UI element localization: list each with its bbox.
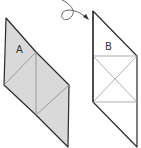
shape-a-outline [4,18,69,147]
shape-a: A [4,18,69,147]
shape-b: B [93,11,137,147]
shape-a-label: A [16,44,23,55]
fold-diagram: A B [0,0,141,148]
shape-b-label: B [105,41,112,52]
curly-arrow-icon [62,0,89,20]
